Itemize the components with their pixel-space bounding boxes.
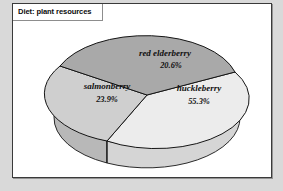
slice-label-huckleberry: huckleberry: [177, 83, 223, 93]
pie-chart: red elderberry 20.6% salmonberry 23.9% h…: [13, 4, 271, 177]
slice-value-huckleberry: 55.3%: [188, 97, 210, 106]
slice-label-salmonberry: salmonberry: [83, 81, 132, 91]
slice-value-salmonberry: 23.9%: [95, 95, 118, 104]
slice-label-red-elderberry: red elderberry: [139, 48, 192, 58]
figure-frame: Diet: plant resources: [12, 3, 272, 178]
slice-value-red-elderberry: 20.6%: [159, 61, 182, 70]
page-background: Diet: plant resources: [0, 0, 283, 191]
